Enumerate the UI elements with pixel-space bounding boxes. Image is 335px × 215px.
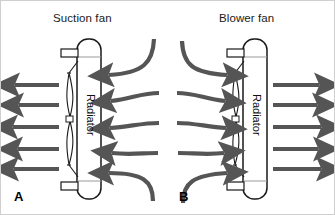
radiator-label-a: Radiator [85,94,97,136]
panel-b-title: Blower fan [219,12,274,24]
fan-blade-upper [233,73,239,117]
fan-blade-icon [66,73,73,165]
curved-arrow-icon [110,123,159,128]
diagram-svg [1,1,335,215]
radiator-label-b: Radiator [251,94,263,136]
curved-arrow-icon [111,93,159,101]
fan-hub [66,116,73,122]
fan-hub [232,116,239,122]
diagram-canvas: Suction fan Blower fan Radiator Radiator… [0,0,335,215]
pipe-stub-upper [227,49,244,57]
curved-arrow-icon [177,123,226,128]
pipe-stub-lower [227,182,244,190]
fan-blade-lower [233,121,239,165]
pipe-stub-upper [61,49,78,57]
curved-arrow-icon [109,39,154,75]
outflow-arrows-a [13,85,59,169]
fan-blade-lower [67,121,73,165]
panel-a-letter: A [14,189,23,204]
fan-blade-upper [67,73,73,117]
curved-arrow-icon [182,41,227,75]
panel-a-title: Suction fan [53,12,112,24]
pipe-stub-lower [61,182,78,190]
fan-blade-icon [232,73,239,165]
inflow-arrows-b [177,41,227,203]
inflow-arrows-a [109,39,159,201]
curved-arrow-icon [112,153,158,154]
curved-arrow-icon [183,173,227,203]
panel-b-letter: B [179,189,188,204]
curved-arrow-icon [177,93,225,101]
outflow-arrows-b [273,85,321,169]
curved-arrow-icon [178,153,224,154]
panel-b [177,39,321,203]
curved-arrow-icon [109,173,153,201]
